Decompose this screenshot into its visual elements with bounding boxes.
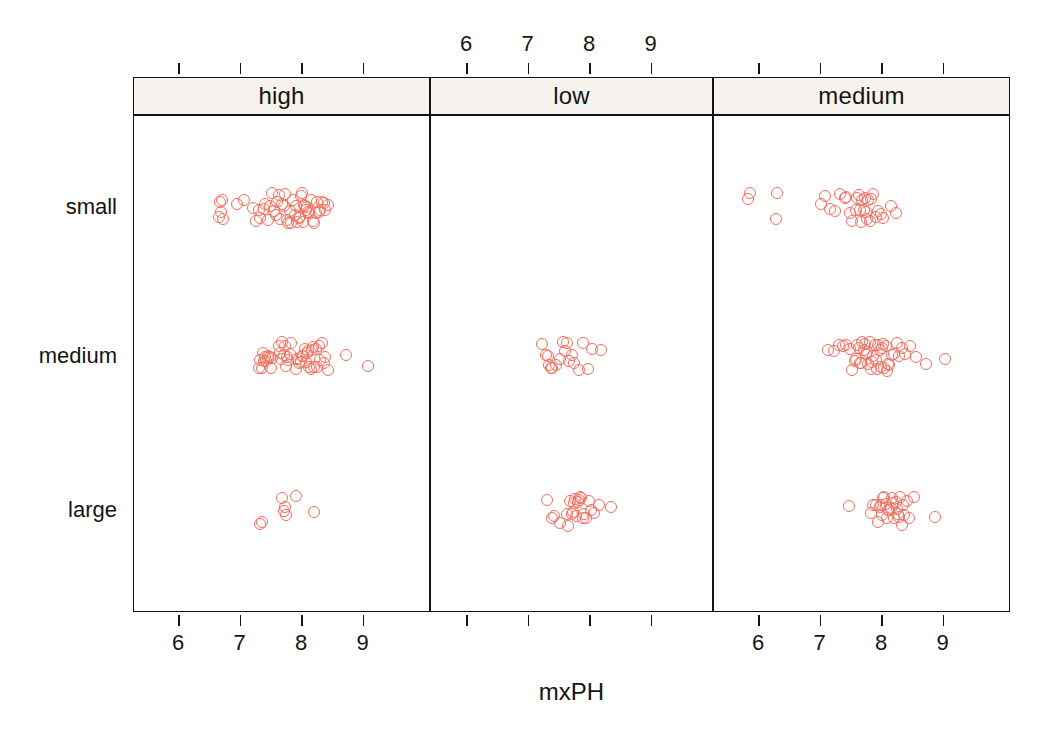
axis-tick (178, 615, 180, 626)
axis-tick-label: 7 (220, 632, 260, 654)
axis-tick (466, 615, 468, 626)
data-point (541, 494, 553, 506)
axis-tick-label: 6 (738, 632, 778, 654)
data-point (285, 337, 297, 349)
axis-tick (240, 615, 242, 626)
data-point (819, 190, 831, 202)
data-point (903, 512, 915, 524)
axis-tick (589, 63, 591, 74)
data-point (265, 362, 277, 374)
axis-tick (240, 63, 242, 74)
axis-tick (881, 63, 883, 74)
axis-tick-label: 7 (508, 33, 548, 55)
plot-panel-low (430, 115, 713, 612)
data-point (308, 506, 320, 518)
data-point (340, 349, 352, 361)
data-point (362, 360, 374, 372)
data-point (595, 344, 607, 356)
axis-tick-label: 9 (923, 632, 963, 654)
axis-tick (943, 615, 945, 626)
data-point (322, 364, 334, 376)
axis-tick (363, 63, 365, 74)
axis-tick (758, 63, 760, 74)
axis-tick-label: 8 (569, 33, 609, 55)
axis-tick (301, 63, 303, 74)
data-point (593, 499, 605, 511)
data-point (256, 516, 268, 528)
axis-tick (528, 63, 530, 74)
axis-tick-label: 8 (281, 632, 321, 654)
data-point (770, 213, 782, 225)
data-point (929, 511, 941, 523)
data-point (216, 194, 228, 206)
axis-tick-label: 9 (343, 632, 383, 654)
axis-tick-label: 9 (631, 33, 671, 55)
data-point (217, 213, 229, 225)
data-point (939, 353, 951, 365)
data-point (908, 491, 920, 503)
axis-tick-label: 6 (446, 33, 486, 55)
data-point (561, 337, 573, 349)
axis-tick (363, 615, 365, 626)
axis-tick (820, 615, 822, 626)
data-point (605, 501, 617, 513)
data-point (829, 205, 841, 217)
panel-strip-medium: medium (713, 77, 1010, 115)
axis-tick (651, 63, 653, 74)
plot-panel-medium (713, 115, 1010, 612)
axis-tick (528, 615, 530, 626)
stripplot-figure: high low medium 678967896789smallmediuml… (0, 0, 1051, 734)
axis-tick (589, 615, 591, 626)
panel-strip-low: low (430, 77, 713, 115)
y-axis-category-label: medium (39, 345, 117, 367)
axis-tick (881, 615, 883, 626)
data-point (890, 207, 902, 219)
panel-strip-label: medium (818, 84, 905, 108)
panel-strip-label: high (258, 84, 304, 108)
data-point (280, 509, 292, 521)
data-point (744, 187, 756, 199)
axis-tick (758, 615, 760, 626)
data-point (843, 500, 855, 512)
plot-panel-high (133, 115, 430, 612)
data-point (319, 351, 331, 363)
data-point (904, 340, 916, 352)
axis-tick (466, 63, 468, 74)
data-point (290, 490, 302, 502)
data-point (920, 358, 932, 370)
data-point (867, 188, 879, 200)
axis-tick-label: 6 (158, 632, 198, 654)
axis-tick-label: 7 (800, 632, 840, 654)
axis-tick (943, 63, 945, 74)
axis-tick (651, 615, 653, 626)
axis-tick (820, 63, 822, 74)
data-point (582, 363, 594, 375)
axis-tick-label: 8 (861, 632, 901, 654)
data-point (322, 199, 334, 211)
x-axis-title: mxPH (133, 680, 1010, 704)
axis-tick (178, 63, 180, 74)
panel-strip-high: high (133, 77, 430, 115)
axis-tick (301, 615, 303, 626)
panel-strip-label: low (553, 84, 590, 108)
y-axis-category-label: large (68, 499, 117, 521)
data-point (316, 337, 328, 349)
data-point (771, 187, 783, 199)
data-point (877, 212, 889, 224)
y-axis-category-label: small (66, 196, 117, 218)
